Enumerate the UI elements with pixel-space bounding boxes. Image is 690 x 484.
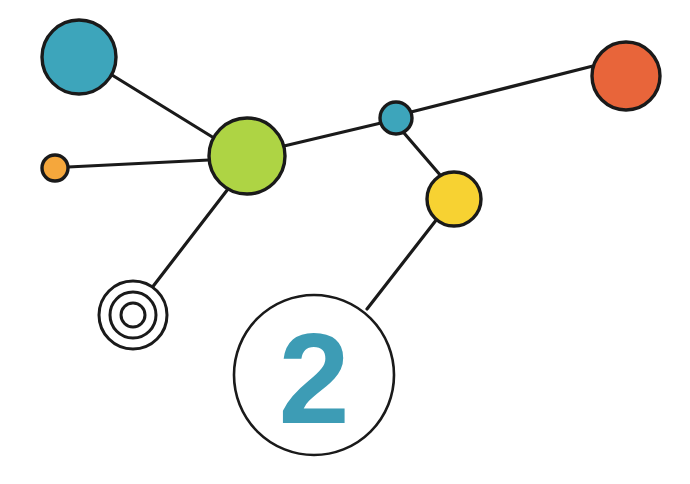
node-badge-number-group: 2: [234, 295, 394, 455]
node-teal-small[interactable]: [380, 102, 412, 134]
node-bullseye-target-group: [99, 281, 167, 349]
node-orange-small-group: [42, 155, 68, 181]
node-red-orange-group: [592, 42, 660, 110]
network-diagram-svg: 2: [0, 0, 690, 484]
node-badge-number-text: 2: [278, 307, 349, 450]
node-teal-small-group: [380, 102, 412, 134]
node-yellow-group: [427, 172, 481, 226]
node-teal-large-group: [42, 20, 116, 94]
node-teal-large[interactable]: [42, 20, 116, 94]
node-green-large[interactable]: [209, 118, 285, 194]
node-red-orange[interactable]: [592, 42, 660, 110]
node-yellow[interactable]: [427, 172, 481, 226]
network-diagram-canvas: 2: [0, 0, 690, 484]
node-green-large-group: [209, 118, 285, 194]
node-orange-small[interactable]: [42, 155, 68, 181]
